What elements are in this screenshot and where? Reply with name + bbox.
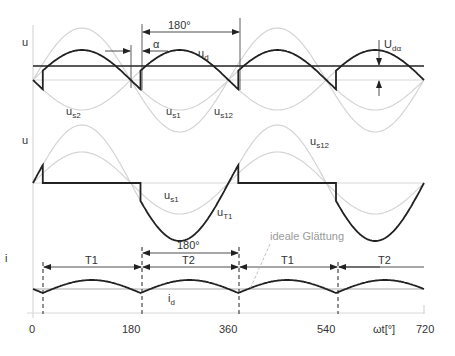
tick-180: 180 — [122, 323, 140, 335]
label-ud: ud — [198, 47, 209, 62]
label-us2: us2 — [66, 105, 81, 120]
tick-540: 540 — [317, 323, 335, 335]
tick-720: 720 — [416, 323, 434, 335]
label-t1b: T1 — [281, 254, 294, 266]
x-axis-label: ωt[°] — [373, 323, 395, 335]
label-us1-mid: us1 — [164, 189, 179, 204]
curve-ut1 — [33, 165, 424, 241]
panel-thyristor-voltage: u us12 us1 uT1 — [22, 125, 424, 241]
label-us12-top: us12 — [214, 105, 234, 120]
tick-0: 0 — [29, 323, 35, 335]
tick-360: 360 — [219, 323, 237, 335]
rectifier-waveform-diagram: u 180° α ud Udα us2 us1 us12 u us12 us1 … — [0, 0, 455, 356]
axis-label-u-top: u — [22, 36, 28, 48]
label-180-bot: 180° — [177, 239, 200, 251]
label-t2b: T2 — [378, 254, 391, 266]
label-id: id — [168, 292, 175, 307]
axis-label-u-mid: u — [22, 134, 28, 146]
curve-id — [33, 280, 424, 293]
panel-output-voltage: u 180° α ud Udα us2 us1 us12 — [22, 18, 424, 132]
unused — [0, 0, 226, 229]
label-udalpha: Udα — [384, 38, 401, 53]
label-180-top: 180° — [168, 19, 191, 31]
label-us1-top: us1 — [166, 105, 181, 120]
axis-label-i: i — [5, 252, 7, 264]
label-us12-mid: us12 — [310, 135, 330, 150]
label-t2a: T2 — [182, 254, 195, 266]
curve-ud — [33, 50, 424, 89]
label-alpha: α — [153, 38, 160, 50]
label-ideale-glaettung: ideale Glättung — [270, 230, 344, 242]
label-t1a: T1 — [85, 254, 98, 266]
label-ut1: uT1 — [217, 206, 233, 221]
